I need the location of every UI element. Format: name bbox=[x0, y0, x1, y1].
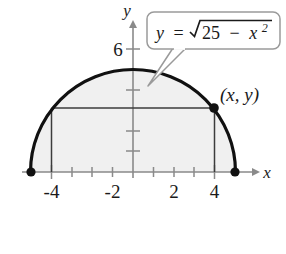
equation-radicand-b: x bbox=[248, 23, 257, 43]
y-axis-label: y bbox=[121, 1, 131, 20]
x-tick-label-neg4: -4 bbox=[44, 181, 60, 202]
figure-container: -4 -2 2 4 6 y x (x, y) y = 25 − x bbox=[0, 0, 286, 254]
endpoint-left-dot bbox=[26, 167, 35, 176]
semicircle-plot: -4 -2 2 4 6 y x (x, y) y = 25 − x bbox=[0, 0, 286, 254]
x-axis-arrowhead bbox=[252, 168, 260, 176]
endpoint-right-dot bbox=[230, 167, 239, 176]
point-xy-dot bbox=[209, 103, 219, 113]
y-axis-arrowhead bbox=[129, 20, 137, 28]
y-tick-label-6: 6 bbox=[113, 39, 123, 60]
equation-lhs: y bbox=[154, 23, 164, 43]
x-tick-label-neg2: -2 bbox=[105, 181, 121, 202]
equation-minus: − bbox=[230, 23, 240, 43]
equation-exponent: 2 bbox=[262, 21, 268, 35]
point-xy-label: (x, y) bbox=[220, 84, 259, 106]
x-tick-label-pos4: 4 bbox=[210, 181, 220, 202]
equation-radicand-a: 25 bbox=[202, 23, 220, 43]
x-tick-label-pos2: 2 bbox=[169, 181, 179, 202]
equation-equals: = bbox=[174, 23, 184, 43]
x-axis-label: x bbox=[262, 163, 271, 182]
svg-text:25 − x: 25 − x 2 bbox=[202, 21, 268, 43]
